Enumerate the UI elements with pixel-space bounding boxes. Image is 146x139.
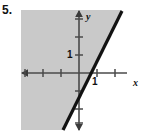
problem-number-label: 5. (2, 3, 12, 17)
x-axis-tick-label-1: 1 (92, 77, 98, 87)
y-axis-label: y (86, 12, 90, 22)
graph-svg (21, 10, 127, 131)
x-axis-label: x (133, 78, 138, 88)
figure-container: 5. (0, 0, 146, 139)
plot-area (21, 10, 127, 130)
y-axis-tick-label-1: 1 (67, 50, 73, 60)
